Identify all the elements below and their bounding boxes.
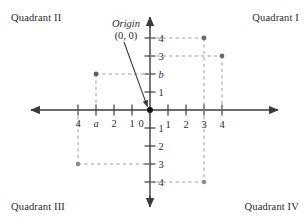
quadrant-ii-label: Quadrant II [11,12,61,23]
quadrant-i-label: Quadrant I [252,12,299,23]
x-tick-label-1: 1 [165,119,170,130]
x-axis [31,105,278,116]
quadrant-iii-label: Quadrant III [11,201,65,212]
x-tick-label-a: a [93,118,98,129]
x-tick-label-3: 3 [201,119,206,130]
axis-origin-label: 0 [138,118,143,129]
y-tick-label-1: 1 [158,87,163,98]
point-3-4 [202,36,207,41]
origin-callout-word: Origin [94,18,158,30]
point-neg4-neg3 [76,162,80,166]
x-tick-label-neg2: 2 [111,118,116,129]
origin-callout-coords: (0, 0) [94,30,158,42]
y-tick-label-neg3: 3 [158,159,163,170]
point-4-3 [220,54,225,59]
y-tick-label-b: b [158,69,163,80]
point-a-b [94,72,99,77]
point-3-neg4 [202,180,206,184]
point-origin [147,107,153,113]
quadrant-iv-label: Quadrant IV [245,201,299,212]
origin-callout: Origin (0, 0) [94,18,158,42]
y-tick-label-neg1: 1 [158,123,163,134]
y-tick-label-4: 4 [158,33,163,44]
y-tick-label-neg2: 2 [158,141,163,152]
x-tick-label-neg4: 4 [75,118,80,129]
x-tick-label-neg1: 1 [129,118,134,129]
y-tick-label-neg4: 4 [158,177,163,188]
coordinate-plane-figure: Quadrant II Quadrant I Quadrant III Quad… [0,0,308,222]
x-tick-label-4: 4 [219,119,224,130]
x-tick-label-2: 2 [183,119,188,130]
y-tick-label-3: 3 [158,51,163,62]
